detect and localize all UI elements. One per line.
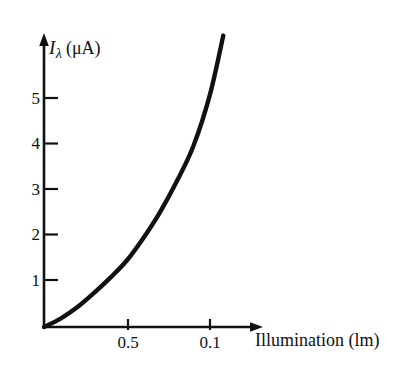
y-tick-label-5: 5 [18,90,40,107]
y-axis-arrowhead-icon [39,33,49,46]
y-axis-subscript: λ [55,46,62,61]
y-tick-label-1: 1 [18,272,40,289]
y-tick-label-4: 4 [18,135,40,152]
photocurrent-illumination-chart: 1 2 3 4 5 0.5 0.1 Iλ(μA) Illumination (l… [0,0,420,367]
x-tick-label-1: 0.1 [188,334,232,351]
y-axis-title: Iλ(μA) [49,38,101,61]
photocurrent-curve [44,36,223,327]
y-tick-label-2: 2 [18,226,40,243]
y-axis-unit: (μA) [62,38,101,58]
y-tick-label-3: 3 [18,181,40,198]
x-axis-title: Illumination (lm) [255,331,379,349]
x-tick-label-0: 0.5 [106,334,150,351]
